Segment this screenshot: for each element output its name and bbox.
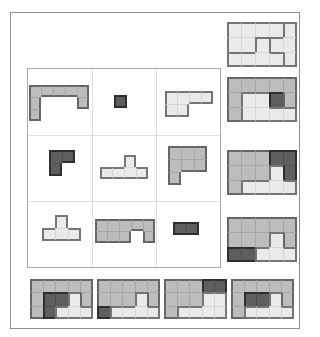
shape-cell [68, 292, 81, 305]
shape-cell [231, 292, 244, 305]
shape-cell [283, 247, 297, 262]
option-bottom-3[interactable] [164, 279, 227, 319]
shape-cell [283, 180, 297, 195]
piece-l-tromino [49, 150, 75, 176]
shape-cell [168, 172, 181, 185]
shape-cell [122, 306, 135, 319]
shape-cell [135, 306, 148, 319]
shape-cell [30, 292, 43, 305]
shape-cell [227, 22, 241, 37]
shape-cell [77, 85, 89, 97]
shape-cell [283, 165, 297, 180]
shape-cell [281, 306, 294, 319]
option-right-3[interactable] [227, 217, 297, 262]
shape-cell [255, 150, 269, 165]
shape-cell [143, 219, 155, 231]
shape-cell [80, 306, 93, 319]
shape-cell [269, 22, 283, 37]
piece-domino [173, 222, 199, 235]
shape-cell [65, 85, 77, 97]
shape-cell [143, 231, 155, 243]
option-right-1[interactable] [227, 77, 297, 122]
shape-cell [255, 247, 269, 262]
shape-cell [29, 109, 41, 121]
shape-cell [256, 292, 269, 305]
piece-t-tetromino [42, 215, 81, 241]
shape-cell [177, 91, 189, 104]
shape-cell [255, 77, 269, 92]
shape-cell [269, 217, 283, 232]
shape-cell [124, 155, 136, 167]
shape-cell [201, 91, 213, 104]
shape-cell [164, 306, 177, 319]
shape-cell [124, 167, 136, 179]
shape-cell [256, 306, 269, 319]
shape-cell [42, 228, 55, 241]
shape-cell [131, 219, 143, 231]
shape-cell [43, 306, 56, 319]
shape-cell [53, 85, 65, 97]
shape-cell [181, 146, 194, 159]
shape-cell [269, 306, 282, 319]
option-bottom-2[interactable] [97, 279, 160, 319]
option-right-2[interactable] [227, 150, 297, 195]
shape-cell [29, 85, 41, 97]
shape-cell [269, 165, 283, 180]
shape-cell [241, 180, 255, 195]
shape-cell [241, 37, 255, 52]
shape-cell [241, 232, 255, 247]
shape-cell [281, 292, 294, 305]
grid-divider-horizontal [28, 135, 220, 136]
shape-cell [29, 97, 41, 109]
shape-cell [164, 279, 177, 292]
shape-cell [283, 150, 297, 165]
shape-cell [107, 219, 119, 231]
shape-cell [269, 292, 282, 305]
shape-cell [68, 306, 81, 319]
shape-cell [255, 22, 269, 37]
shape-cell [95, 219, 107, 231]
shape-cell [241, 165, 255, 180]
piece-single-square [114, 95, 127, 108]
shape-cell [62, 150, 75, 163]
option-bottom-1[interactable] [30, 279, 93, 319]
shape-cell [119, 231, 131, 243]
shape-cell [227, 107, 241, 122]
shape-cell [97, 292, 110, 305]
shape-cell [177, 292, 190, 305]
shape-cell [255, 92, 269, 107]
shape-cell [269, 52, 283, 67]
piece-t-pentomino [100, 155, 148, 179]
shape-cell [269, 107, 283, 122]
shape-cell [77, 97, 89, 109]
shape-cell [122, 279, 135, 292]
shape-cell [283, 232, 297, 247]
shape-cell [110, 306, 123, 319]
shape-cell [256, 279, 269, 292]
shape-cell [189, 292, 202, 305]
shape-cell [135, 279, 148, 292]
shape-cell [244, 279, 257, 292]
option-bottom-4[interactable] [231, 279, 294, 319]
shape-cell [244, 306, 257, 319]
shape-cell [100, 167, 112, 179]
shape-cell [269, 232, 283, 247]
shape-cell [241, 217, 255, 232]
shape-cell [227, 247, 241, 262]
shape-cell [30, 306, 43, 319]
shape-cell [283, 217, 297, 232]
piece-p-heptomino [168, 146, 207, 185]
shape-cell [173, 222, 186, 235]
shape-cell [241, 77, 255, 92]
piece-bracket [29, 85, 89, 121]
shape-cell [269, 150, 283, 165]
shape-cell [55, 215, 68, 228]
shape-cell [202, 292, 215, 305]
shape-cell [255, 232, 269, 247]
option-top-right[interactable] [227, 22, 297, 67]
grid-divider-vertical [156, 69, 157, 267]
shape-cell [283, 52, 297, 67]
shape-cell [227, 150, 241, 165]
shape-cell [122, 292, 135, 305]
shape-cell [55, 306, 68, 319]
